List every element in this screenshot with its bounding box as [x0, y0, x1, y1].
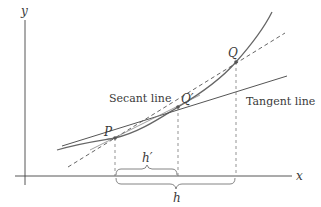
point-q: [234, 60, 238, 64]
function-curve: [57, 12, 272, 150]
point-q-label: Q: [228, 47, 238, 59]
y-axis-label: y: [21, 5, 28, 17]
h-prime-label: h′: [142, 152, 152, 164]
secant-line-label: Secant line: [109, 93, 171, 104]
point-p: [113, 136, 117, 140]
secant-tangent-diagram: y x P Q′ Q Secant line Tangent line h′ h: [0, 0, 321, 207]
point-q-prime-label: Q′: [181, 93, 194, 105]
h-prime-brace: [116, 165, 177, 175]
h-label: h: [173, 192, 181, 204]
point-q-prime: [176, 105, 180, 109]
x-axis-label: x: [296, 170, 303, 182]
tangent-line: [62, 76, 287, 146]
point-p-label: P: [104, 126, 112, 138]
tangent-line-label: Tangent line: [246, 96, 315, 107]
h-brace: [116, 178, 235, 189]
